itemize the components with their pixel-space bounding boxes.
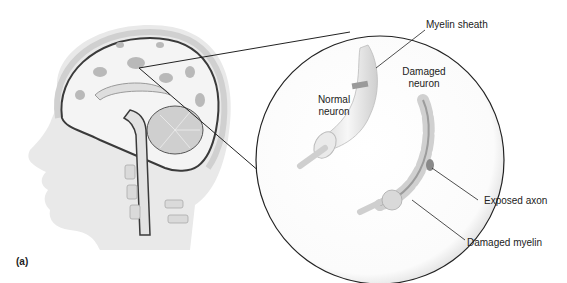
panel-label: (a) bbox=[16, 256, 28, 267]
label-damaged-neuron: Damaged neuron bbox=[398, 66, 450, 90]
label-damaged-neuron-line2: neuron bbox=[398, 78, 450, 90]
label-damaged-neuron-line1: Damaged bbox=[398, 66, 450, 78]
label-normal-neuron-line2: neuron bbox=[312, 106, 356, 118]
label-damaged-myelin: Damaged myelin bbox=[467, 237, 542, 249]
label-myelin-sheath: Myelin sheath bbox=[426, 19, 488, 31]
head-silhouette bbox=[28, 25, 231, 250]
label-exposed-axon: Exposed axon bbox=[484, 195, 547, 207]
label-normal-neuron: Normal neuron bbox=[312, 94, 356, 118]
label-normal-neuron-line1: Normal bbox=[312, 94, 356, 106]
